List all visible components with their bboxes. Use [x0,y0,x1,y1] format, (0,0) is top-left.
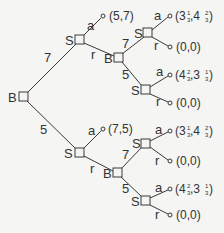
node-upper-s [75,35,84,44]
leaf-3 [168,45,172,49]
payoff-7: (3 1 3 ,4 2 3 ) [175,124,213,138]
edges [27,17,168,214]
payoff-2: (3 1 3 ,4 2 3 ) [175,9,213,23]
action-ul-r: r [156,94,161,109]
svg-text:,3: ,3 [190,68,200,82]
leaf-4 [168,73,172,77]
action-lower-a: a [88,123,96,138]
svg-text:(3: (3 [175,124,186,138]
action-ll-r: r [155,207,160,222]
edge-root-upper [27,44,76,93]
node-root-b [19,92,28,101]
action-lower-r: r [90,161,95,176]
action-lb-5: 5 [122,181,129,196]
action-labels: 7 5 a r 7 5 a r a r a r 7 5 a r a r [40,8,164,222]
game-tree-diagram: B S B S S S B S S 7 5 a r 7 5 a r a r a … [0,0,224,233]
svg-text:,4: ,4 [190,124,200,138]
action-root-7: 7 [44,50,51,65]
leaf-2 [168,14,172,18]
action-uu-a: a [154,8,162,23]
label-root-b: B [8,90,17,105]
payoff-10: (0,0) [176,208,201,222]
action-ub-7: 7 [122,36,129,51]
node-ll-s [141,196,150,205]
game-tree-svg: B S B S S S B S S 7 5 a r 7 5 a r a r a … [0,0,224,233]
leaf-8 [168,159,172,163]
leaf-10 [168,213,172,217]
action-ul-a: a [156,64,164,79]
leaf-5 [168,101,172,105]
payoff-3: (0,0) [176,40,201,54]
svg-text:,3: ,3 [190,182,200,196]
svg-text:,4: ,4 [190,9,200,23]
svg-text:): ) [209,9,213,23]
action-ll-a: a [155,180,163,195]
action-upper-a: a [87,18,95,33]
label-upper-b: B [104,51,113,66]
svg-text:(4: (4 [175,182,186,196]
svg-text:(3: (3 [175,9,186,23]
payoff-9: (4 2 3 ,3 1 3 ) [175,182,213,196]
label-lu-s: S [132,136,141,151]
node-ul-s [141,85,150,94]
node-uu-s [143,28,152,37]
action-lu-a: a [155,122,163,137]
action-lu-r: r [155,153,160,168]
payoff-6: (7,5) [108,122,133,136]
action-uu-r: r [154,38,159,53]
leaf-7 [168,129,172,133]
svg-text:): ) [209,124,213,138]
node-lower-b [113,168,122,177]
label-lower-s: S [64,146,73,161]
svg-text:): ) [209,182,213,196]
action-root-5: 5 [40,122,47,137]
edge-root-lower [27,101,76,149]
decision-nodes [19,28,152,205]
label-ul-s: S [131,83,140,98]
action-lb-7: 7 [122,147,129,162]
leaf-6 [101,127,105,131]
node-lower-s [75,148,84,157]
label-uu-s: S [134,26,143,41]
label-upper-s: S [65,33,74,48]
action-ub-5: 5 [122,67,129,82]
leaf-1 [101,14,105,18]
leaf-9 [168,187,172,191]
svg-text:): ) [209,68,213,82]
payoff-1: (5,7) [109,9,134,23]
payoff-8: (0,0) [176,154,201,168]
label-lower-b: B [103,166,112,181]
node-upper-b [114,53,123,62]
svg-text:(4: (4 [175,68,186,82]
payoff-5: (0,0) [176,96,201,110]
node-lu-s [141,139,150,148]
action-upper-r: r [91,47,96,62]
label-ll-s: S [131,194,140,209]
payoff-4: (4 2 3 ,3 1 3 ) [175,68,213,82]
